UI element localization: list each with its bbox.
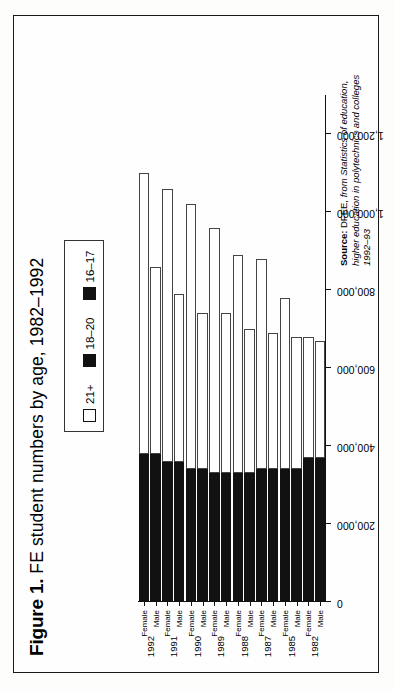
category-axis-tick [167,602,168,606]
category-label-sex: Male [175,610,184,627]
category-axis-tick [308,602,309,606]
bar-segment-s1617 [268,485,279,602]
bar-segment-s1617 [221,489,232,602]
bar-segment-s1820 [315,458,326,474]
legend-item: 16–17 [83,251,96,301]
bar-segment-s1820 [280,469,291,485]
category-label-sex: Female [257,610,266,637]
bar-1989-male [221,313,232,602]
bar-segment-s21 [186,204,197,469]
category-axis-tick [297,602,298,606]
bar-segment-s1820 [197,469,208,485]
legend-label: 16–17 [84,251,96,283]
category-axis-tick [261,602,262,606]
bar-segment-s1617 [150,469,161,602]
category-axis-tick [203,602,204,606]
bar-segment-s21 [197,313,208,469]
bar-segment-s21 [303,337,314,458]
category-label-sex: Female [233,610,242,637]
legend-swatch-open [83,409,96,422]
bar-segment-s21 [315,341,326,458]
rotated-figure-canvas: Figure 1. FE student numbers by age, 198… [20,24,372,664]
page-canvas: Figure 1. FE student numbers by age, 198… [0,0,395,690]
bar-1992-female [139,173,150,602]
bar-segment-s21 [174,294,185,462]
legend-swatch-solid [83,288,96,301]
category-label-year: 1985 [285,636,296,657]
bar-segment-s21 [209,228,220,474]
bar-1985-female [280,298,291,602]
bar-segment-s1617 [209,489,220,602]
category-label-sex: Male [151,610,160,627]
source-note: Source: DFEE, from Statistics of educati… [338,58,373,266]
bar-segment-s1820 [244,473,255,489]
bar-1987-female [256,259,267,602]
category-label-sex: Female [163,610,172,637]
category-label-sex: Female [280,610,289,637]
category-label-year: 1990 [191,636,202,657]
category-axis-tick [191,602,192,606]
bar-segment-s21 [221,313,232,473]
category-axis-tick [320,602,321,606]
bar-segment-s1617 [197,485,208,602]
category-axis-tick [273,602,274,606]
bar-1985-male [291,337,302,602]
bar-segment-s1820 [303,458,314,474]
bar-segment-s1820 [209,473,220,489]
bar-segment-s1617 [256,485,267,602]
bar-1988-female [233,255,244,602]
bar-segment-s1820 [174,462,185,478]
bar-segment-s21 [139,173,150,454]
category-axis-tick [156,602,157,606]
bar-1991-male [174,294,185,602]
bar-segment-s21 [280,298,291,470]
figure-frame: Figure 1. FE student numbers by age, 198… [13,15,379,673]
x-axis-tick [326,367,331,368]
bar-segment-s1820 [221,473,232,489]
category-label-sex: Male [245,610,254,627]
bar-segment-s1820 [256,469,267,485]
bar-1991-female [162,189,173,602]
bar-segment-s1617 [280,485,291,602]
x-axis-tick [326,445,331,446]
bar-segment-s1820 [186,469,197,485]
bar-segment-s1617 [186,485,197,602]
category-axis-tick [250,602,251,606]
category-axis-tick [238,602,239,606]
bar-segment-s1820 [150,454,161,470]
x-axis-tick-label: 200,000 [337,521,375,533]
x-axis-tick [326,211,331,212]
bar-1982-male [315,341,326,602]
x-axis-tick [326,601,331,602]
x-axis-tick [326,523,331,524]
bar-segment-s1820 [162,462,173,478]
category-axis-tick [179,602,180,606]
chart-legend: 21+18–2016–17 [64,240,104,432]
bar-segment-s1617 [244,489,255,602]
category-label-year: 1987 [262,636,273,657]
page-title: Figure 1. FE student numbers by age, 198… [26,258,48,656]
bar-segment-s21 [291,337,302,470]
bar-segment-s21 [244,329,255,473]
legend-label: 18–20 [84,318,96,350]
category-label-year: 1982 [309,636,320,657]
bar-1989-female [209,228,220,602]
category-label-sex: Male [316,610,325,627]
bar-1987-male [268,333,279,602]
category-label-year: 1991 [168,636,179,657]
bar-segment-s1617 [233,489,244,602]
bar-segment-s21 [233,255,244,473]
bar-1990-male [197,313,208,602]
x-axis-tick-label: 400,000 [337,443,375,455]
figure-number: Figure 1. [26,579,47,656]
category-label-year: 1988 [238,636,249,657]
bar-segment-s21 [256,259,267,470]
source-agency: DFEE, [338,197,349,230]
figure-title-text: FE student numbers by age, 1982–1992 [27,258,47,574]
category-label-sex: Female [304,610,313,637]
bar-segment-s21 [162,189,173,462]
category-axis-tick [144,602,145,606]
category-axis-tick [226,602,227,606]
category-label-sex: Female [186,610,195,637]
category-label-year: 1992 [144,636,155,657]
